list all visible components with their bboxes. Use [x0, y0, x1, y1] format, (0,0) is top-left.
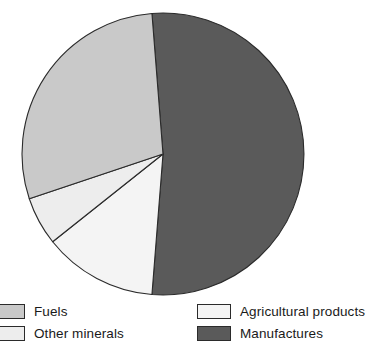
legend-item-agricultural-products[interactable]: Agricultural products: [197, 300, 365, 322]
pie-chart-graphic: [0, 0, 361, 300]
legend-swatch-other-minerals: [0, 326, 25, 341]
legend-swatch-fuels: [0, 304, 25, 319]
legend-swatch-agricultural-products: [197, 304, 231, 319]
legend-column-right: Agricultural products Manufactures: [197, 300, 365, 344]
pie-slices: [22, 13, 304, 295]
legend-label-manufactures: Manufactures: [240, 326, 323, 341]
pie-slice-manufactures[interactable]: [152, 13, 304, 295]
legend-item-fuels[interactable]: Fuels: [0, 300, 124, 322]
legend-label-other-minerals: Other minerals: [34, 326, 124, 341]
chart-legend: Fuels Other minerals Agricultural produc…: [0, 300, 361, 358]
legend-label-fuels: Fuels: [34, 304, 68, 319]
legend-item-other-minerals[interactable]: Other minerals: [0, 322, 124, 344]
legend-item-manufactures[interactable]: Manufactures: [197, 322, 365, 344]
legend-label-agricultural-products: Agricultural products: [240, 304, 365, 319]
legend-column-left: Fuels Other minerals: [0, 300, 124, 344]
legend-swatch-manufactures: [197, 326, 231, 341]
